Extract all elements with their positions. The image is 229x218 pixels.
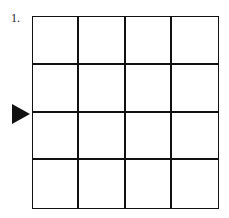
grid-cell[interactable] [79,17,125,65]
grid-cell[interactable] [126,65,172,113]
grid-cell[interactable] [172,160,218,208]
grid-cell[interactable] [33,113,79,161]
grid-cell[interactable] [172,113,218,161]
grid-cell[interactable] [126,17,172,65]
grid-cell[interactable] [33,65,79,113]
puzzle-number-label: 1. [11,11,20,26]
grid-cell[interactable] [172,65,218,113]
grid-cell[interactable] [79,160,125,208]
grid-cell[interactable] [126,160,172,208]
grid-cell[interactable] [126,113,172,161]
grid-cell[interactable] [33,160,79,208]
grid-cell[interactable] [172,17,218,65]
right-pointing-triangle-icon [12,104,30,124]
puzzle-grid [32,16,219,209]
grid-cell[interactable] [33,17,79,65]
grid-cell[interactable] [79,65,125,113]
grid-cell[interactable] [79,113,125,161]
